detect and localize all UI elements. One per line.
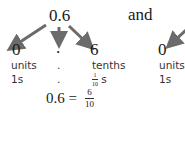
digit-point: . <box>56 38 60 58</box>
equation-fraction: 6 10 <box>85 88 94 109</box>
right-label-units: units <box>159 59 185 71</box>
label-point: . <box>57 59 60 71</box>
label-tenths: tenths <box>92 59 125 71</box>
digit-tenths: 6 <box>90 40 99 60</box>
digit-units: 0 <box>12 40 21 60</box>
tenths-fraction: 1 10 <box>92 72 98 87</box>
equation: 0.6 = 6 10 <box>46 88 94 109</box>
arrow-to-tenths <box>69 26 88 44</box>
equation-lhs: 0.6 = <box>46 90 77 107</box>
right-digit-units: 0 <box>158 40 167 60</box>
value-units: 1s <box>11 73 23 85</box>
label-units: units <box>11 59 37 71</box>
value-point: . <box>57 73 60 85</box>
value-tenths: 1 10 s <box>92 72 107 87</box>
top-number: 0.6 <box>49 6 70 26</box>
right-value-units: 1s <box>159 73 171 85</box>
connector-word: and <box>128 5 153 25</box>
arrow-to-right-units <box>172 30 185 43</box>
